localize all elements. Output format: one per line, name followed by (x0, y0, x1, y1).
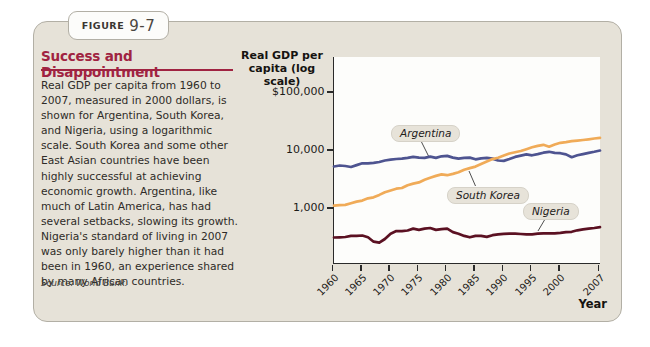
x-tick-mark (360, 265, 362, 271)
nigeria-line (334, 227, 600, 243)
chart-canvas (334, 57, 600, 263)
figure-page: FIGURE 9-7 Success and Disappointment Re… (0, 0, 650, 347)
x-tick-mark (598, 265, 600, 271)
x-tick-mark (530, 265, 532, 271)
x-tick-mark (332, 265, 334, 271)
x-tick-mark (502, 265, 504, 271)
x-tick-mark (445, 265, 447, 271)
y-tick-mark (327, 149, 333, 151)
y-axis-title: Real GDP per capita (log scale) (233, 49, 331, 88)
y-tick-label: 1,000 (253, 201, 325, 214)
y-tick-mark (327, 207, 333, 209)
argentina-series-label: Argentina (391, 125, 460, 142)
title-rule (41, 69, 233, 71)
y-tick-label: 10,000 (253, 143, 325, 156)
figure-tab: FIGURE 9-7 (68, 11, 169, 40)
caption-text: Real GDP per capita from 1960 to 2007, m… (41, 78, 243, 289)
nigeria-series-label: Nigeria (523, 203, 579, 220)
y-tick-mark (327, 91, 333, 93)
x-tick-mark (388, 265, 390, 271)
figure-number: 9-7 (129, 17, 155, 35)
x-tick-mark (473, 265, 475, 271)
figure-label: FIGURE (82, 20, 124, 31)
source-note: Source: World Bank. (41, 278, 243, 288)
argentina-line (334, 151, 600, 168)
argentina-pointer-line (421, 142, 428, 156)
nigeria-pointer-line (538, 220, 545, 231)
figure-title: Success and Disappointment (41, 48, 241, 80)
y-axis-title-line1: Real GDP per (241, 49, 323, 62)
plot-area (333, 57, 600, 264)
y-tick-label: $100,000 (253, 85, 325, 98)
x-tick-mark (558, 265, 560, 271)
south-korea-series-label: South Korea (447, 187, 529, 204)
x-tick-mark (417, 265, 419, 271)
south-korea-pointer-line (469, 171, 476, 186)
